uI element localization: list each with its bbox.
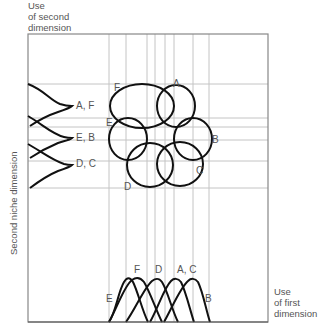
bottom-label-d: D xyxy=(155,265,162,275)
y-axis-title: Second niche dimension xyxy=(8,151,19,255)
ellipse-C xyxy=(157,142,203,186)
bottom-label-e: E xyxy=(106,294,113,304)
x-right-label: Use of first dimension xyxy=(274,286,317,319)
ellipse-label-e: E xyxy=(106,118,113,128)
bottom-label-b: B xyxy=(205,294,212,304)
plot-frame xyxy=(28,34,268,322)
x-right-label-line-3: dimension xyxy=(274,308,317,319)
niche-diagram xyxy=(0,0,319,332)
y-top-label-line-1: Use xyxy=(28,0,71,11)
left-distribution-curves xyxy=(28,84,72,188)
y-top-label: Use of second dimension xyxy=(28,0,71,33)
left-label-eb: E, B xyxy=(76,133,95,143)
grid-lines xyxy=(28,34,268,322)
left-label-af: A, F xyxy=(76,101,94,111)
y-top-label-line-3: dimension xyxy=(28,22,71,33)
bottom-distribution-curves xyxy=(109,278,210,322)
ellipse-A xyxy=(157,85,195,127)
x-right-label-line-1: Use xyxy=(274,286,317,297)
ellipse-label-c: C xyxy=(196,166,203,176)
ellipse-label-b: B xyxy=(212,135,219,145)
left-label-dc: D, C xyxy=(76,159,96,169)
ellipse-label-f: F xyxy=(114,83,120,93)
ellipse-label-a: A xyxy=(173,79,180,89)
x-right-label-line-2: of first xyxy=(274,297,317,308)
ellipse-E xyxy=(109,118,147,160)
y-top-label-line-2: of second xyxy=(28,11,71,22)
ellipse-label-d: D xyxy=(124,182,131,192)
bottom-label-ac: A, C xyxy=(177,265,196,275)
bottom-label-f: F xyxy=(134,265,140,275)
